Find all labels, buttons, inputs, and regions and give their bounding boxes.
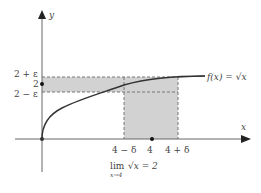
x-tick-4-plus-delta: 4 + δ <box>165 145 189 155</box>
limit-body: √x = 2 <box>128 161 158 171</box>
x-value-4-dot <box>150 137 154 141</box>
y-tick-2: 2 <box>33 79 39 89</box>
function-label: f(x) = √x <box>206 72 247 82</box>
y-axis-label: y <box>48 10 55 20</box>
x-axis-label: x <box>241 122 246 132</box>
origin-dot <box>40 137 44 141</box>
limit-subscript: x→4 <box>110 171 122 178</box>
y-value-2-dot <box>40 82 44 86</box>
x-tick-4: 4 <box>147 145 153 155</box>
limit-diagram: y x 2 + ε 2 2 − ε 4 − δ 4 4 + δ f(x) = √… <box>0 0 261 193</box>
y-tick-2-minus-epsilon: 2 − ε <box>14 89 38 99</box>
x-axis-arrow-icon <box>241 135 251 143</box>
delta-band <box>124 92 178 139</box>
y-tick-2-plus-epsilon: 2 + ε <box>14 69 38 79</box>
y-axis-arrow-icon <box>38 10 46 19</box>
x-tick-4-minus-delta: 4 − δ <box>112 145 136 155</box>
limit-lim: lim <box>110 161 125 171</box>
